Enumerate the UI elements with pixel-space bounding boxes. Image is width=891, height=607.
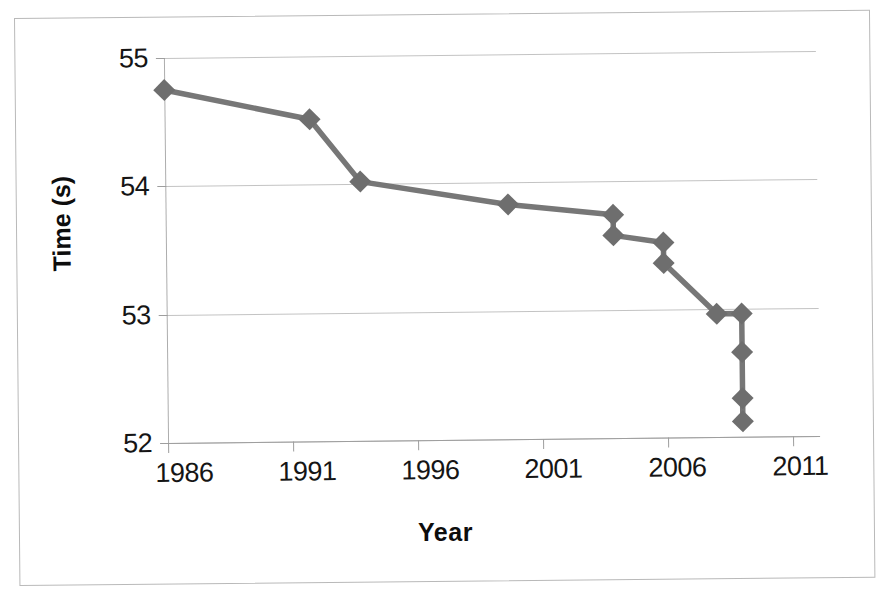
y-tick-label-52: 52 [123, 428, 152, 459]
x-tick-label-1991: 1991 [278, 456, 336, 488]
chart-canvas: 55 54 53 52 1986 1991 1996 2001 2006 201… [0, 0, 891, 607]
x-tick-label-2011: 2011 [772, 451, 828, 483]
chart-page: 55 54 53 52 1986 1991 1996 2001 2006 201… [0, 0, 891, 607]
x-tick-2001 [543, 439, 544, 449]
x-tick-label-2006: 2006 [648, 452, 706, 484]
x-tick-2011 [793, 436, 794, 446]
x-tick-1991 [293, 442, 294, 452]
gridline-54 [165, 179, 817, 187]
x-tick-1986 [168, 443, 169, 453]
y-tick-label-53: 53 [121, 300, 150, 331]
gridline-53 [167, 308, 819, 316]
gridline-55 [164, 51, 816, 59]
x-tick-label-1996: 1996 [401, 455, 459, 487]
y-tick-55 [156, 58, 165, 59]
x-tick-label-1986: 1986 [155, 457, 213, 489]
x-tick-label-2001: 2001 [524, 453, 582, 485]
y-axis-title: Time (s) [46, 123, 77, 323]
y-tick-label-55: 55 [119, 43, 148, 74]
y-tick-label-group: 55 54 53 52 [65, 3, 152, 504]
plot-area [164, 51, 820, 443]
x-axis-title: Year [0, 518, 891, 547]
x-tick-2006 [668, 438, 669, 448]
y-tick-label-54: 54 [120, 171, 149, 202]
x-tick-1996 [418, 440, 419, 450]
y-tick-53 [159, 315, 168, 316]
y-tick-54 [157, 186, 166, 187]
